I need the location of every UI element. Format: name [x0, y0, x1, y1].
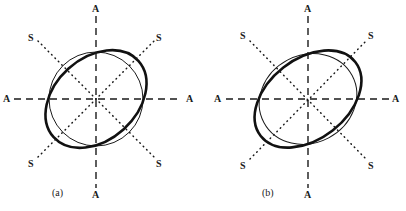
panel-b-axis-label-s-northwest: S — [240, 31, 246, 41]
panel-b-axis-label-s-southwest: S — [240, 161, 246, 171]
figure-svg — [0, 0, 406, 211]
panel-b-axis-label-s-southeast: S — [368, 161, 374, 171]
panel-a-axis-label-a-right: A — [186, 94, 193, 104]
panel-b-axis-label-a-left: A — [214, 94, 221, 104]
panel-b-caption: (b) — [262, 188, 274, 198]
panel-a-axis-label-a-bottom: A — [92, 190, 99, 200]
panel-b-axis-label-a-bottom: A — [304, 190, 311, 200]
panel-a-axis-label-a-left: A — [3, 94, 10, 104]
panel-a-axis-label-a-top: A — [92, 4, 99, 14]
panel-b-axis-label-a-right: A — [392, 94, 399, 104]
panel-a-caption: (a) — [52, 188, 63, 198]
panel-a-axis-label-s-southwest: S — [28, 159, 34, 169]
figure-container: A A A A S S S S (a) A A A A S S S S (b) — [0, 0, 406, 211]
panel-b-axis-label-a-top: A — [304, 4, 311, 14]
panel-b-axis-label-s-northeast: S — [368, 31, 374, 41]
panel-b-group — [226, 16, 390, 188]
panel-a-axis-label-s-northwest: S — [28, 33, 34, 43]
panel-a-axis-label-s-northeast: S — [156, 33, 162, 43]
panel-a-axis-label-s-southeast: S — [156, 159, 162, 169]
